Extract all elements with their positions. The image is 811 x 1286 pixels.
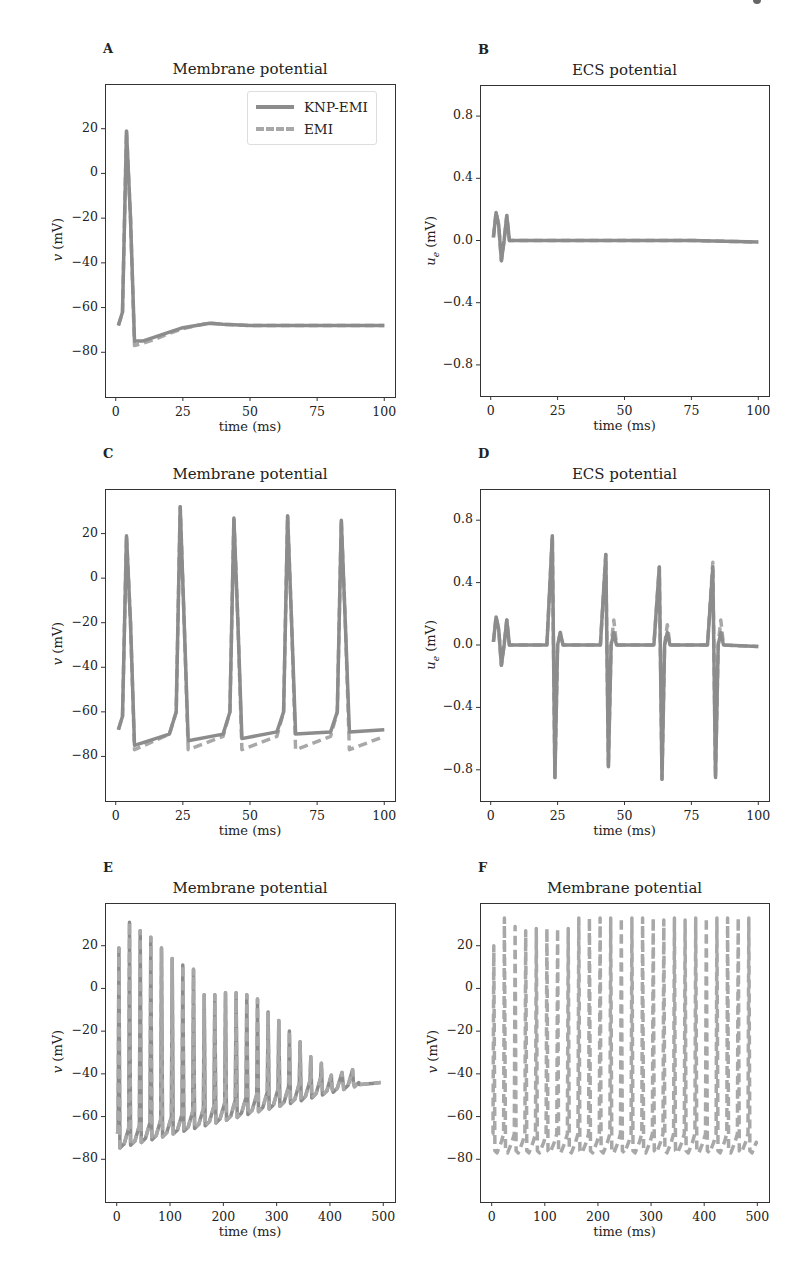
x-tick-label: 200 [203, 1209, 243, 1224]
x-tick-label: 25 [538, 808, 578, 823]
x-tick-label: 25 [538, 403, 578, 418]
panel-letter: D [478, 446, 489, 461]
page-corner-mark [753, 0, 761, 4]
x-tick-label: 50 [605, 403, 645, 418]
x-tick-label: 0 [471, 808, 511, 823]
y-tick-label: −60 [447, 1108, 473, 1123]
plot-canvas [480, 903, 769, 1202]
y-tick-label: −80 [72, 747, 98, 762]
y-axis-label: v (mV) [50, 1011, 65, 1091]
series-knp-emi [117, 922, 380, 1148]
y-tick-label: −0.4 [443, 294, 473, 309]
legend-label: EMI [304, 121, 333, 137]
y-tick-label: −60 [72, 703, 98, 718]
panel-letter: C [103, 446, 113, 461]
x-tick-label: 100 [738, 403, 778, 418]
x-tick-label: 400 [310, 1209, 350, 1224]
x-axis-label: time (ms) [105, 419, 395, 434]
y-tick-label: −40 [447, 1065, 473, 1080]
panel-letter: F [478, 860, 487, 875]
x-axis-label: time (ms) [480, 418, 769, 433]
x-tick-label: 75 [671, 403, 711, 418]
y-tick-label: 0 [90, 569, 98, 584]
legend: KNP-EMIEMI [247, 91, 377, 145]
y-tick-label: 0.0 [453, 636, 473, 651]
x-tick-label: 100 [150, 1209, 190, 1224]
x-tick-label: 75 [297, 404, 337, 419]
x-tick-label: 300 [631, 1209, 671, 1224]
y-axis-label: v (mV) [425, 1011, 440, 1091]
y-tick-label: −40 [72, 658, 98, 673]
x-tick-label: 50 [230, 404, 270, 419]
series-knp-emi [493, 536, 758, 779]
x-tick-label: 0 [96, 808, 136, 823]
x-tick-label: 75 [297, 808, 337, 823]
plot-canvas [105, 903, 395, 1202]
x-tick-label: 300 [257, 1209, 297, 1224]
x-tick-label: 0 [96, 404, 136, 419]
y-tick-label: 0.4 [453, 169, 473, 184]
y-tick-label: 20 [82, 937, 98, 952]
series-emi [118, 131, 384, 346]
x-axis-label: time (ms) [105, 1224, 395, 1239]
y-tick-label: −0.8 [443, 761, 473, 776]
x-tick-label: 400 [684, 1209, 724, 1224]
y-tick-label: 20 [82, 525, 98, 540]
y-tick-label: 0.4 [453, 574, 473, 589]
legend-label: KNP-EMI [304, 99, 368, 115]
x-tick-label: 0 [472, 1209, 512, 1224]
x-axis-label: time (ms) [480, 823, 769, 838]
y-tick-label: −20 [72, 209, 98, 224]
x-tick-label: 25 [163, 808, 203, 823]
y-tick-label: −60 [72, 299, 98, 314]
x-tick-label: 200 [578, 1209, 618, 1224]
y-tick-label: −20 [447, 1022, 473, 1037]
y-tick-label: −20 [72, 1022, 98, 1037]
y-tick-label: −80 [72, 1150, 98, 1165]
x-tick-label: 25 [163, 404, 203, 419]
y-tick-label: −80 [72, 343, 98, 358]
legend-item: EMI [256, 118, 368, 140]
y-axis-label: v (mV) [50, 199, 65, 279]
x-axis-label: time (ms) [480, 1224, 769, 1239]
x-tick-label: 0 [97, 1209, 137, 1224]
dashed-line-icon [256, 127, 294, 131]
y-tick-label: 20 [82, 120, 98, 135]
y-tick-label: 0 [465, 979, 473, 994]
series-knp-emi [493, 213, 758, 261]
x-tick-label: 0 [471, 403, 511, 418]
y-tick-label: −80 [447, 1150, 473, 1165]
y-axis-label: ue (mV) [423, 605, 441, 685]
x-tick-label: 100 [364, 808, 404, 823]
panel-title: ECS potential [480, 465, 769, 483]
panel-letter: B [478, 42, 489, 57]
y-tick-label: 0.0 [453, 232, 473, 247]
panel-title: Membrane potential [480, 879, 769, 897]
y-tick-label: 0.8 [453, 511, 473, 526]
x-tick-label: 100 [364, 404, 404, 419]
panel-letter: A [103, 41, 113, 56]
plot-canvas [105, 489, 395, 801]
x-tick-label: 75 [671, 808, 711, 823]
x-axis-label: time (ms) [105, 823, 395, 838]
y-tick-label: −40 [72, 254, 98, 269]
x-tick-label: 500 [737, 1209, 777, 1224]
y-axis-label: v (mV) [50, 604, 65, 684]
x-tick-label: 100 [738, 808, 778, 823]
x-tick-label: 50 [230, 808, 270, 823]
solid-line-icon [256, 105, 294, 109]
series-knp-emi [118, 131, 384, 341]
series-emi [492, 918, 756, 1153]
y-tick-label: −60 [72, 1108, 98, 1123]
panel-title: Membrane potential [105, 879, 395, 897]
y-tick-label: −0.4 [443, 698, 473, 713]
series-knp-emi [118, 507, 384, 746]
panel-title: ECS potential [480, 61, 769, 79]
y-tick-label: 0.8 [453, 107, 473, 122]
y-tick-label: 20 [457, 937, 473, 952]
series-emi [493, 213, 758, 261]
x-tick-label: 100 [525, 1209, 565, 1224]
plot-canvas [480, 85, 769, 396]
y-tick-label: −0.8 [443, 356, 473, 371]
panel-letter: E [103, 860, 113, 875]
